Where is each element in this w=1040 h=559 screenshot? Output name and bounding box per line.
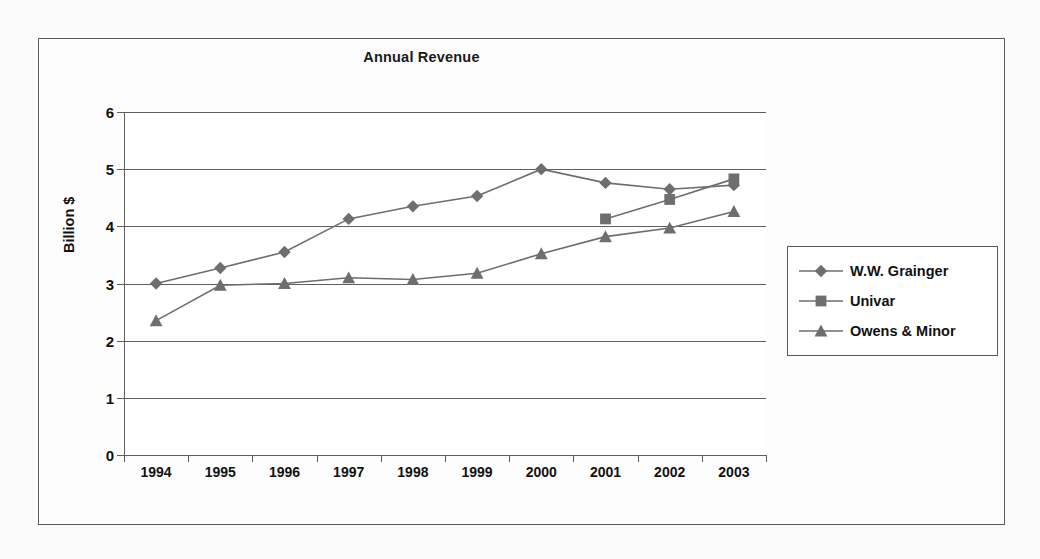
- data-point-diamond: [150, 277, 162, 289]
- data-point-diamond: [535, 163, 547, 175]
- y-axis-tick: [117, 341, 124, 342]
- x-axis-tick-label: 2001: [590, 464, 621, 480]
- data-point-diamond: [214, 262, 226, 274]
- x-axis-tick-label: 2002: [654, 464, 685, 480]
- y-axis-tick: [117, 398, 124, 399]
- x-axis-tick-label: 1996: [269, 464, 300, 480]
- legend-marker-diamond: [798, 263, 844, 279]
- x-axis-tick: [766, 455, 767, 462]
- x-axis-tick: [188, 455, 189, 462]
- series-line: [156, 169, 734, 283]
- legend-marker-triangle: [798, 323, 844, 339]
- legend-label: W.W. Grainger: [850, 263, 948, 279]
- data-point-diamond: [343, 213, 355, 225]
- data-point-diamond: [599, 177, 611, 189]
- y-axis-tick-labels: 0123456: [74, 112, 114, 455]
- data-point-square: [729, 173, 740, 184]
- chart-legend: W.W. GraingerUnivarOwens & Minor: [787, 246, 998, 356]
- y-axis-tick: [117, 112, 124, 113]
- y-axis-tick-label: 0: [78, 447, 114, 464]
- x-axis-tick: [638, 455, 639, 462]
- data-point-diamond: [278, 246, 290, 258]
- x-axis-tick-label: 1997: [333, 464, 364, 480]
- y-axis-tick-label: 1: [78, 389, 114, 406]
- x-axis-tick: [124, 455, 125, 462]
- data-point-diamond: [407, 200, 419, 212]
- x-axis-tick: [252, 455, 253, 462]
- y-axis-tick: [117, 284, 124, 285]
- y-axis-tick-label: 6: [78, 104, 114, 121]
- data-point-square: [664, 194, 675, 205]
- y-axis-tick-label: 4: [78, 218, 114, 235]
- y-axis-tick: [117, 455, 124, 456]
- data-point-diamond: [815, 265, 827, 277]
- x-axis-tick-label: 2000: [526, 464, 557, 480]
- x-axis-tick: [381, 455, 382, 462]
- y-axis-tick: [117, 226, 124, 227]
- legend-item[interactable]: W.W. Grainger: [788, 256, 997, 286]
- x-axis-tick: [573, 455, 574, 462]
- x-axis-tick-label: 2003: [718, 464, 749, 480]
- y-axis-tick-label: 3: [78, 275, 114, 292]
- y-axis-tick-label: 2: [78, 332, 114, 349]
- data-point-square: [816, 296, 827, 307]
- x-axis-tick: [509, 455, 510, 462]
- x-axis-tick: [317, 455, 318, 462]
- legend-item[interactable]: Owens & Minor: [788, 316, 997, 346]
- x-axis-tick: [445, 455, 446, 462]
- legend-label: Univar: [850, 293, 895, 309]
- data-point-triangle: [150, 314, 163, 326]
- data-point-diamond: [664, 183, 676, 195]
- figure-frame: Annual Revenue Billion $ 0123456 1994199…: [38, 38, 1005, 525]
- x-axis-tick-label: 1998: [397, 464, 428, 480]
- x-axis-tick-label: 1995: [205, 464, 236, 480]
- series-line: [156, 211, 734, 320]
- plot-area: 0123456 19941995199619971998199920002001…: [124, 112, 766, 455]
- x-axis-tick: [702, 455, 703, 462]
- y-axis-tick: [117, 169, 124, 170]
- legend-label: Owens & Minor: [850, 323, 956, 339]
- series-overlay: [124, 112, 766, 455]
- x-axis-tick-label: 1999: [462, 464, 493, 480]
- legend-item[interactable]: Univar: [788, 286, 997, 316]
- data-point-triangle: [728, 205, 741, 217]
- data-point-triangle: [471, 267, 484, 279]
- y-axis-tick-label: 5: [78, 161, 114, 178]
- data-point-square: [600, 214, 611, 225]
- legend-marker-square: [798, 293, 844, 309]
- chart-title: Annual Revenue: [39, 49, 804, 65]
- data-point-diamond: [471, 190, 483, 202]
- x-axis-tick-label: 1994: [141, 464, 172, 480]
